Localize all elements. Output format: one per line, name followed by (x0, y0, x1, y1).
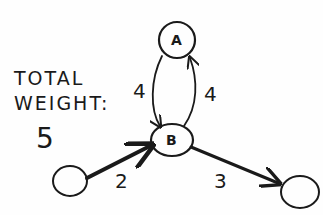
edge-a-to-b (153, 56, 162, 126)
annotation-line2: WEIGHT: (14, 92, 109, 114)
diagram-svg: TOTAL WEIGHT: 5 A B 4 4 2 3 (0, 0, 323, 215)
annotation-value: 5 (36, 122, 54, 155)
node-sink (281, 176, 319, 208)
edge-b-to-sink-weight: 3 (214, 169, 227, 193)
node-a-label: A (171, 32, 182, 48)
edge-b-to-a (184, 58, 195, 126)
node-b: B (151, 124, 193, 156)
graph-diagram: TOTAL WEIGHT: 5 A B 4 4 2 3 (0, 0, 323, 215)
node-b-label: B (166, 132, 177, 148)
edge-a-to-b-weight: 4 (133, 79, 146, 103)
edge-source-to-b-weight: 2 (115, 169, 128, 193)
node-source (53, 166, 87, 196)
edge-b-to-sink (191, 147, 278, 183)
annotation-line1: TOTAL (13, 67, 84, 89)
node-a: A (159, 22, 195, 58)
edge-b-to-a-weight: 4 (204, 82, 217, 106)
